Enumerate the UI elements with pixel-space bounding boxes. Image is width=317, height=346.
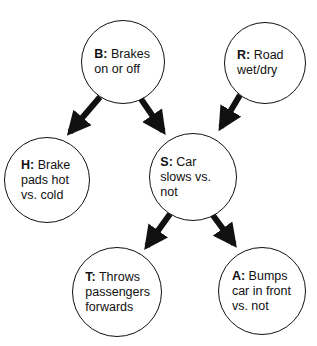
- edge-b-to-h: [70, 97, 100, 132]
- node-t-throws-passengers: T: Throws passengers forwards: [72, 247, 162, 337]
- node-r-road: R: Road wet/dry: [224, 22, 306, 104]
- node-a-label: A: Bumps car in front vs. not: [232, 269, 292, 314]
- node-t-label: T: Throws passengers forwards: [85, 270, 148, 315]
- node-b-brakes: B: Brakes on or off: [81, 20, 165, 104]
- edge-s-to-t: [147, 214, 170, 246]
- node-s-label: S: Car slows vs. not: [160, 155, 225, 200]
- edge-r-to-s: [221, 95, 240, 127]
- node-s-car-slows: S: Car slows vs. not: [149, 133, 237, 221]
- node-h-brake-pads: H: Brake pads hot vs. cold: [4, 137, 90, 223]
- edge-s-to-a: [212, 214, 234, 244]
- node-r-label: R: Road wet/dry: [237, 48, 293, 78]
- edge-b-to-s: [141, 99, 163, 131]
- node-h-label: H: Brake pads hot vs. cold: [21, 158, 73, 203]
- node-b-label: B: Brakes on or off: [94, 47, 151, 77]
- node-a-bumps-car: A: Bumps car in front vs. not: [218, 247, 306, 335]
